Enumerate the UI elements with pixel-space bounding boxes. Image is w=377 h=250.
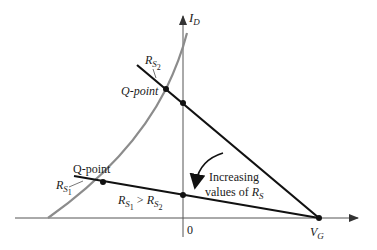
origin-label: 0 xyxy=(187,223,193,237)
q-point-rs2 xyxy=(163,86,169,92)
q-point-rs1 xyxy=(100,179,106,185)
annotation-line1: Increasing xyxy=(209,170,259,184)
annotation-line2: values of RS xyxy=(205,185,264,201)
rs-relation-label: RS1 > RS2 xyxy=(117,193,162,212)
rs1-label: RS1 xyxy=(55,178,72,197)
q-point-rs1-label: Q-point xyxy=(73,162,111,176)
rs2-leader xyxy=(153,69,156,78)
y-intercept-rs2 xyxy=(180,100,186,106)
rs2-label: RS2 xyxy=(144,53,161,72)
x-axis-label: VG xyxy=(310,225,324,241)
rs1-leader xyxy=(69,181,83,187)
y-intercept-rs1 xyxy=(180,192,186,198)
y-axis-label: ID xyxy=(188,10,200,27)
load-line-rs1 xyxy=(74,176,319,218)
jfet-self-bias-diagram: ID VG 0 RS2 Q-point Q-point RS1 RS1 > RS… xyxy=(0,0,377,250)
q-point-rs2-label: Q-point xyxy=(121,84,159,98)
vg-point xyxy=(316,215,322,221)
